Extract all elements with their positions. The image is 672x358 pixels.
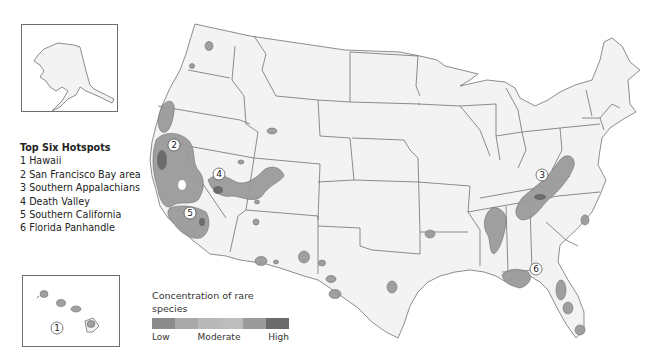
- svg-text:3: 3: [539, 170, 545, 180]
- label-sf-bay: 2: [168, 139, 180, 151]
- hotspot-item: 6 Florida Panhandle: [20, 221, 141, 234]
- alaska-inset: [21, 24, 118, 112]
- label-death-valley: 4: [213, 168, 225, 180]
- hotspots-legend-title: Top Six Hotspots: [20, 141, 141, 154]
- legend-low-label: Low: [152, 332, 170, 342]
- swatch-4: [220, 318, 243, 329]
- label-southern-california: 5: [184, 207, 196, 219]
- concentration-legend-title: Concentration of rare species: [152, 289, 292, 315]
- hotspot-item: 2 San Francisco Bay area: [20, 168, 141, 181]
- swatch-6: [266, 318, 289, 329]
- swatch-3: [198, 318, 221, 329]
- svg-text:6: 6: [533, 264, 539, 274]
- hotspots-legend: Top Six Hotspots 1 Hawaii 2 San Francisc…: [20, 141, 141, 235]
- concentration-legend: Concentration of rare species Low Modera…: [152, 289, 292, 342]
- svg-text:2: 2: [171, 140, 177, 150]
- label-southern-appalachians: 3: [536, 169, 548, 181]
- swatch-1: [152, 318, 175, 329]
- swatch-5: [243, 318, 266, 329]
- svg-text:4: 4: [216, 169, 222, 179]
- label-hawaii-text: 1: [54, 323, 60, 333]
- legend-moderate-label: Moderate: [198, 332, 241, 342]
- hotspot-item: 4 Death Valley: [20, 195, 141, 208]
- alaska-map: [22, 25, 117, 111]
- legend-high-label: High: [268, 332, 289, 342]
- hotspot-item: 3 Southern Appalachians: [20, 181, 141, 194]
- hawaii-inset: 1: [22, 275, 120, 347]
- hotspot-item: 1 Hawaii: [20, 154, 141, 167]
- hotspot-item: 5 Southern California: [20, 208, 141, 221]
- hawaii-map: 1: [23, 276, 119, 346]
- swatch-2: [175, 318, 198, 329]
- concentration-color-bar: [152, 318, 289, 329]
- svg-text:5: 5: [187, 208, 193, 218]
- label-florida-panhandle: 6: [530, 263, 542, 275]
